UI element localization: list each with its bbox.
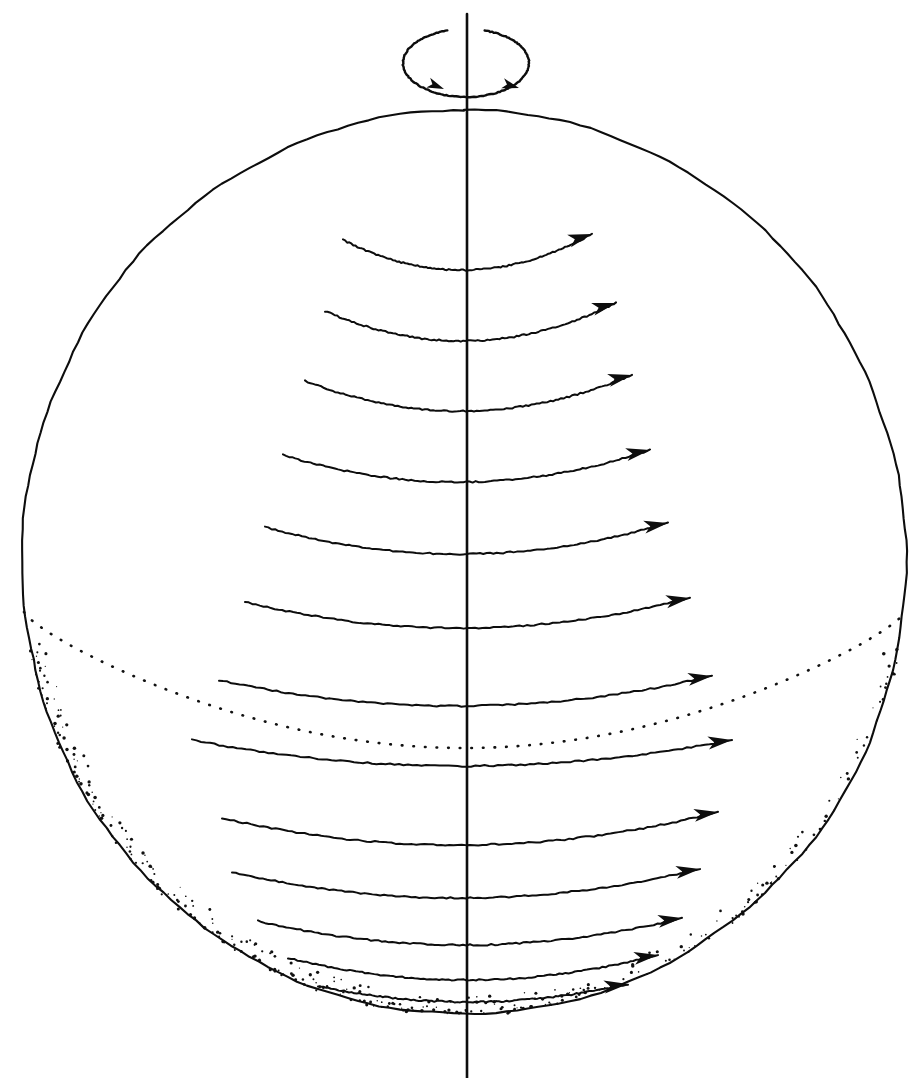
stipple-dot bbox=[253, 954, 256, 957]
stipple-dot bbox=[39, 667, 42, 670]
stipple-dot bbox=[167, 893, 169, 895]
stipple-dot bbox=[885, 683, 887, 685]
stipple-dot bbox=[118, 821, 121, 824]
stipple-dot bbox=[249, 939, 251, 941]
stipple-dot bbox=[39, 670, 41, 672]
stipple-dot bbox=[79, 778, 80, 779]
stipple-dot bbox=[231, 939, 232, 940]
stipple-dot bbox=[422, 1006, 424, 1008]
stipple-dot bbox=[705, 934, 707, 936]
stipple-dot bbox=[59, 734, 61, 736]
stipple-dot bbox=[367, 986, 370, 989]
stipple-dot bbox=[43, 675, 45, 677]
stipple-dot bbox=[587, 987, 590, 990]
stipple-dot bbox=[126, 847, 128, 849]
stipple-dot bbox=[785, 865, 786, 866]
stipple-dot bbox=[45, 666, 46, 667]
stipple-dot bbox=[750, 890, 752, 892]
stipple-dot bbox=[757, 883, 758, 884]
stipple-dot bbox=[630, 971, 633, 974]
stipple-dot bbox=[144, 855, 146, 857]
stipple-dot bbox=[747, 898, 750, 901]
stipple-dot bbox=[840, 777, 842, 779]
stipple-dot bbox=[54, 698, 55, 699]
stipple-dot bbox=[333, 980, 335, 982]
stipple-dot bbox=[333, 976, 335, 978]
stipple-dot bbox=[173, 894, 175, 896]
stipple-dot bbox=[316, 971, 319, 974]
stipple-dot bbox=[426, 1005, 428, 1007]
stipple-dot bbox=[388, 1002, 391, 1005]
stipple-dot bbox=[153, 873, 155, 875]
stipple-dot bbox=[790, 851, 793, 854]
stipple-dot bbox=[683, 950, 685, 952]
stipple-dot bbox=[125, 830, 127, 832]
stipple-dot bbox=[476, 996, 478, 998]
stipple-dot bbox=[393, 1003, 396, 1006]
stipple-dot bbox=[219, 932, 222, 935]
stipple-dot bbox=[46, 681, 49, 684]
stipple-dot bbox=[872, 707, 873, 708]
stipple-dot bbox=[401, 1007, 402, 1008]
stipple-dot bbox=[572, 988, 574, 990]
stipple-dot bbox=[73, 747, 77, 751]
stipple-dot bbox=[893, 673, 895, 675]
stipple-dot bbox=[665, 960, 667, 962]
stipple-dot bbox=[46, 702, 48, 704]
stipple-dot bbox=[77, 760, 78, 761]
stipple-dot bbox=[46, 697, 49, 700]
stipple-dot bbox=[847, 777, 850, 780]
stipple-dot bbox=[534, 992, 537, 995]
stipple-dot bbox=[191, 900, 193, 902]
stipple-dot bbox=[93, 800, 95, 802]
stipple-dot bbox=[261, 950, 263, 952]
stipple-dot bbox=[100, 812, 101, 813]
stipple-dot bbox=[359, 984, 362, 987]
stipple-dot bbox=[57, 732, 59, 734]
rotation-direction-arrows bbox=[426, 78, 520, 94]
stipple-dot bbox=[411, 1007, 414, 1010]
stipple-dot bbox=[110, 824, 113, 827]
stipple-dot bbox=[524, 992, 525, 993]
stipple-dot bbox=[690, 933, 692, 935]
stipple-dot bbox=[346, 989, 347, 990]
stipple-dot bbox=[575, 996, 578, 999]
stipple-dot bbox=[896, 662, 898, 664]
stipple-dot bbox=[74, 765, 77, 768]
stipple-dot bbox=[92, 803, 93, 804]
stipple-dot bbox=[93, 796, 97, 800]
zonal-flow-arrowheads bbox=[567, 228, 733, 994]
stipple-dot bbox=[44, 652, 47, 655]
stipple-dot bbox=[91, 791, 93, 793]
stipple-dot bbox=[87, 793, 90, 796]
stipple-dot bbox=[794, 844, 798, 848]
stipple-dot bbox=[42, 687, 44, 689]
stipple-dot bbox=[312, 978, 314, 980]
stipple-dot bbox=[38, 643, 41, 646]
stipple-dot bbox=[208, 908, 211, 911]
stipple-dot bbox=[57, 715, 60, 718]
zonal-flow-curves bbox=[192, 234, 732, 1003]
figure-canvas: Rotating sphere with zonal (west-to-east… bbox=[0, 0, 921, 1078]
stipple-dot bbox=[668, 958, 671, 961]
stipple-dot bbox=[185, 895, 187, 897]
stipple-dot bbox=[152, 868, 154, 870]
stipple-dot bbox=[231, 935, 233, 937]
stipple-dot bbox=[594, 987, 596, 989]
zonal-flow-arrowhead bbox=[687, 670, 713, 686]
stipple-dot bbox=[31, 659, 32, 660]
sphere-outline bbox=[22, 109, 907, 1013]
stipple-dot bbox=[744, 906, 746, 908]
stipple-dot bbox=[141, 851, 144, 854]
stipple-dot bbox=[880, 686, 882, 688]
stipple-dot bbox=[813, 833, 816, 836]
stipple-dot bbox=[87, 765, 90, 768]
stipple-dot bbox=[245, 940, 248, 943]
stipple-dot bbox=[846, 772, 849, 775]
stipple-dot bbox=[36, 651, 38, 653]
stipple-dot bbox=[177, 900, 180, 903]
stipple-dot bbox=[131, 854, 133, 856]
stipple-dot bbox=[146, 861, 148, 863]
stipple-dot bbox=[447, 1008, 450, 1011]
stipple-dot bbox=[855, 751, 858, 754]
